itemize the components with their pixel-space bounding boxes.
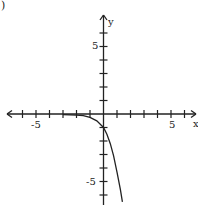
x-tick-label-pos5: 5: [169, 120, 175, 130]
coordinate-plane: [0, 0, 198, 205]
y-tick-label-pos5: 5: [92, 41, 98, 51]
x-axis-label: x: [193, 119, 198, 129]
x-tick-label-neg5: -5: [31, 120, 41, 130]
y-tick-label-neg5: -5: [86, 177, 96, 187]
function-curve: [63, 115, 122, 202]
y-axis-label: y: [108, 17, 114, 27]
